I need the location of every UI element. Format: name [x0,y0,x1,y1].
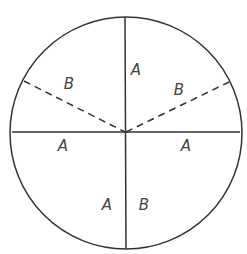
label-bottom-b: B [139,198,149,213]
left-dashed-radius-line [24,81,125,132]
label-top-right-b: B [174,83,184,98]
label-left-a: A [58,139,68,154]
diagram-canvas [0,0,247,254]
vertical-diameter-line [125,17,126,249]
label-right-a: A [181,139,191,154]
circle-partition-diagram: A B B A A A B [0,0,247,254]
label-top-right-a: A [131,63,141,78]
label-top-left-b: B [64,77,74,92]
label-bottom-a: A [102,198,112,213]
